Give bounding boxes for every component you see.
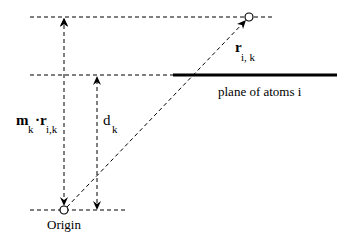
- plane-label: plane of atoms i: [218, 85, 301, 98]
- position-vector-arrow: [67, 21, 245, 207]
- projection-label-r-sub: i,k: [46, 124, 57, 135]
- projection-label-m-sub: k: [28, 124, 34, 135]
- origin-label: Origin: [47, 218, 81, 231]
- projection-label-m: m: [16, 113, 29, 128]
- distance-label-d: d: [103, 113, 111, 128]
- distance-label-sub: k: [112, 124, 118, 135]
- diagram-canvas: [0, 0, 349, 244]
- origin-point: [60, 206, 68, 214]
- atom-point: [245, 13, 253, 21]
- vector-label-sub: i, k: [241, 52, 255, 63]
- projection-arrow-bottom-head: [60, 197, 68, 206]
